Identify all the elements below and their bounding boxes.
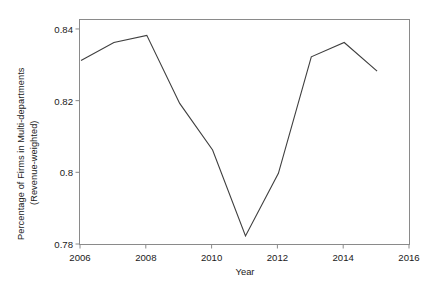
plot-panel xyxy=(79,19,410,245)
data-series-line xyxy=(81,35,377,236)
x-tick-label: 2008 xyxy=(135,252,156,263)
x-tick-label: 2016 xyxy=(398,252,419,263)
x-tick-label: 2006 xyxy=(69,252,90,263)
data-line-svg xyxy=(80,20,411,246)
x-tick-label: 2012 xyxy=(267,252,288,263)
line-chart: Percentage of Firms in Multi-departments… xyxy=(0,0,444,290)
x-tick-label: 2014 xyxy=(333,252,354,263)
x-tick-label: 2010 xyxy=(201,252,222,263)
x-axis-title: Year xyxy=(236,266,255,277)
